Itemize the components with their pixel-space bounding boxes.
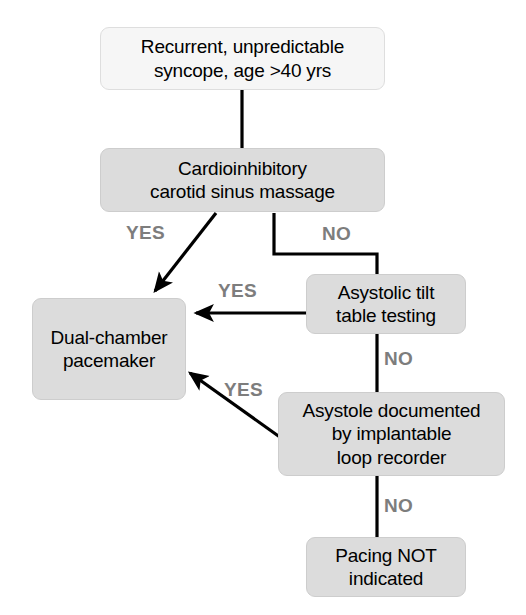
node-pacemaker-line-1: Dual-chamber [51,326,168,349]
node-no-pacing[interactable]: Pacing NOT indicated [306,537,466,597]
node-tilt-table[interactable]: Asystolic tilt table testing [306,274,466,334]
edge-label-tilt-no: NO [384,348,413,370]
node-presentation-line-2: syncope, age >40 yrs [154,59,331,82]
node-pacemaker-line-2: pacemaker [63,349,155,372]
edge-label-massage-yes: YES [126,222,165,244]
node-loop-recorder-line-2: by implantable [332,422,452,445]
node-carotid-massage-line-1: Cardioinhibitory [178,157,307,180]
node-tilt-table-line-2: table testing [336,304,436,327]
edge-label-massage-no: NO [322,223,351,245]
node-no-pacing-line-1: Pacing NOT [335,544,436,567]
node-loop-recorder[interactable]: Asystole documented by implantable loop … [278,392,505,476]
node-carotid-massage-line-2: carotid sinus massage [150,180,335,203]
node-pacemaker[interactable]: Dual-chamber pacemaker [32,298,186,400]
node-no-pacing-line-2: indicated [349,567,423,590]
node-loop-recorder-line-3: loop recorder [337,446,446,469]
flowchart-canvas: Recurrent, unpredictable syncope, age >4… [0,0,526,615]
node-presentation-line-1: Recurrent, unpredictable [141,35,344,58]
node-carotid-massage[interactable]: Cardioinhibitory carotid sinus massage [100,148,385,212]
edge-label-tilt-yes: YES [218,280,257,302]
node-loop-recorder-line-1: Asystole documented [303,399,481,422]
node-presentation[interactable]: Recurrent, unpredictable syncope, age >4… [100,27,385,90]
node-tilt-table-line-1: Asystolic tilt [338,281,434,304]
edge-label-loop-no: NO [384,495,413,517]
edge-label-loop-yes: YES [224,379,263,401]
